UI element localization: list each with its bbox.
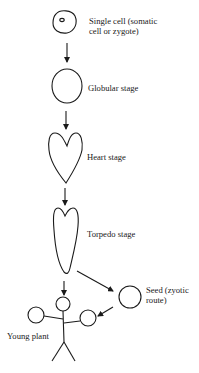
- plant-left-branch: [44, 316, 63, 319]
- globular-label: Globular stage: [88, 83, 139, 93]
- seed-node: Seed (zyotic route): [119, 285, 189, 308]
- young-plant-label: Young plant: [7, 331, 49, 341]
- plant-right-branch: [64, 321, 80, 323]
- single-cell-label-line1: Single cell (somatic: [89, 16, 157, 26]
- single-cell-label-line2: cell or zygote): [89, 26, 139, 36]
- torpedo-shape: [53, 208, 78, 273]
- plant-right-leaf: [80, 310, 96, 326]
- single-cell-node: Single cell (somatic cell or zygote): [53, 11, 157, 36]
- globular-node: Globular stage: [52, 69, 139, 103]
- plant-stem: [63, 311, 64, 342]
- single-cell-shape: [53, 11, 76, 33]
- plant-left-root: [52, 342, 64, 361]
- torpedo-node: Torpedo stage: [53, 208, 135, 273]
- seed-label-line1: Seed (zyotic: [146, 285, 189, 295]
- arrow-seed-to-young-plant: [98, 307, 113, 316]
- globular-shape: [52, 69, 82, 103]
- heart-node: Heart stage: [49, 133, 126, 183]
- seed-label-line2: route): [146, 295, 167, 305]
- arrow-torpedo-to-seed: [77, 271, 113, 291]
- heart-label: Heart stage: [87, 152, 126, 162]
- nucleus-shape: [60, 18, 64, 21]
- heart-shape: [49, 133, 83, 183]
- plant-right-root: [64, 342, 75, 361]
- plant-top-circle: [56, 297, 70, 311]
- young-plant-node: Young plant: [7, 297, 96, 361]
- torpedo-label: Torpedo stage: [87, 229, 136, 239]
- embryogenesis-diagram: Single cell (somatic cell or zygote) Glo…: [0, 0, 199, 373]
- seed-shape: [119, 286, 141, 308]
- plant-left-leaf: [28, 307, 44, 323]
